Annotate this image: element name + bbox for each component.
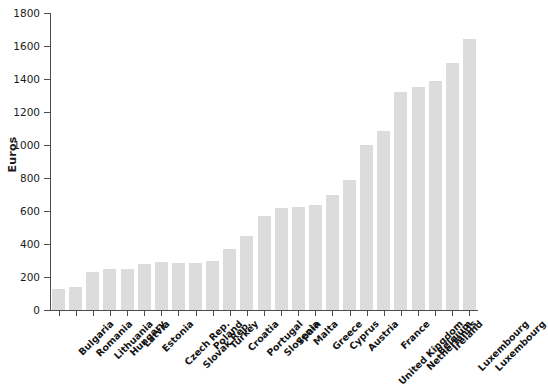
y-axis-tick-label: 0 <box>33 304 40 316</box>
x-axis-tick <box>315 311 316 316</box>
y-axis-tick-label: 1800 <box>13 7 40 19</box>
y-axis: 020040060080010001200140016001800 <box>0 13 50 311</box>
bar <box>206 261 219 311</box>
y-axis-tick-label: 800 <box>20 172 40 184</box>
y-axis-tick-label: 1400 <box>13 73 40 85</box>
x-axis-tick <box>350 311 351 316</box>
x-axis-tick <box>247 311 248 316</box>
y-axis-tick-label: 1200 <box>13 106 40 118</box>
x-axis-tick <box>452 311 453 316</box>
bar <box>412 87 425 310</box>
bar <box>69 287 82 310</box>
x-axis-tick <box>76 311 77 316</box>
x-axis-tick <box>332 311 333 316</box>
bar <box>463 39 476 310</box>
bar <box>223 249 236 310</box>
x-axis-tick <box>144 311 145 316</box>
x-axis-tick <box>418 311 419 316</box>
bar <box>360 145 373 310</box>
x-axis-tick <box>469 311 470 316</box>
x-axis-label: France <box>398 318 431 351</box>
bar <box>343 180 356 310</box>
bar <box>138 264 151 310</box>
y-axis-tick-label: 600 <box>20 205 40 217</box>
x-axis-tick <box>281 311 282 316</box>
x-axis-tick <box>93 311 94 316</box>
x-axis-tick <box>230 311 231 316</box>
x-axis-tick <box>367 311 368 316</box>
y-axis-tick-label: 1600 <box>13 40 40 52</box>
x-axis-tick <box>298 311 299 316</box>
y-axis-tick-label: 400 <box>20 238 40 250</box>
y-axis-tick-label: 1000 <box>13 139 40 151</box>
bar <box>394 92 407 310</box>
x-axis-tick-label: France <box>398 318 431 351</box>
x-axis-tick <box>384 311 385 316</box>
x-axis-tick <box>435 311 436 316</box>
bar <box>275 208 288 310</box>
bar <box>309 205 322 310</box>
bar <box>292 207 305 310</box>
bar <box>121 269 134 310</box>
bar <box>240 236 253 310</box>
x-axis-tick <box>196 311 197 316</box>
x-axis-tick <box>178 311 179 316</box>
bar <box>377 131 390 310</box>
bar <box>326 195 339 310</box>
bar <box>258 216 271 310</box>
bar <box>86 272 99 310</box>
y-axis-tick-label: 200 <box>20 271 40 283</box>
x-axis-tick <box>161 311 162 316</box>
bar <box>52 289 65 310</box>
plot-area <box>50 13 478 310</box>
bar <box>189 263 202 310</box>
x-axis-tick <box>59 311 60 316</box>
x-axis-tick <box>264 311 265 316</box>
bar <box>103 269 116 310</box>
x-axis-tick <box>401 311 402 316</box>
x-axis-tick <box>127 311 128 316</box>
bar <box>446 63 459 311</box>
bar <box>172 263 185 310</box>
x-axis-tick <box>110 311 111 316</box>
x-axis-tick <box>213 311 214 316</box>
bar <box>429 81 442 310</box>
bar <box>155 262 168 310</box>
